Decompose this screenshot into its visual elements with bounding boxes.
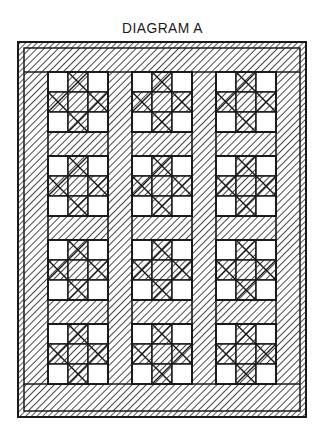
plain-square	[172, 280, 192, 300]
star-block	[216, 156, 276, 216]
plain-square	[132, 72, 152, 92]
plain-square	[88, 196, 108, 216]
plain-square	[48, 112, 68, 132]
plain-square	[256, 72, 276, 92]
plain-square	[256, 364, 276, 384]
plain-square	[172, 112, 192, 132]
star-block	[48, 156, 108, 216]
plain-square	[172, 72, 192, 92]
plain-square	[132, 196, 152, 216]
hatched-square	[68, 344, 88, 364]
star-block	[48, 72, 108, 132]
plain-square	[216, 364, 236, 384]
hatched-square	[152, 176, 172, 196]
plain-square	[88, 240, 108, 260]
star-block	[132, 324, 192, 384]
plain-square	[48, 72, 68, 92]
hatched-square	[152, 344, 172, 364]
plain-square	[88, 72, 108, 92]
plain-square	[132, 112, 152, 132]
hatched-square	[152, 92, 172, 112]
star-block	[216, 72, 276, 132]
hatched-square	[236, 176, 256, 196]
hatched-square	[68, 260, 88, 280]
plain-square	[216, 196, 236, 216]
quilt-diagram	[0, 0, 325, 440]
star-block	[132, 240, 192, 300]
plain-square	[216, 240, 236, 260]
plain-square	[256, 240, 276, 260]
plain-square	[132, 280, 152, 300]
star-block	[216, 240, 276, 300]
plain-square	[132, 324, 152, 344]
plain-square	[216, 156, 236, 176]
plain-square	[256, 324, 276, 344]
plain-square	[256, 156, 276, 176]
plain-square	[216, 112, 236, 132]
plain-square	[172, 324, 192, 344]
plain-square	[132, 364, 152, 384]
hatched-square	[68, 92, 88, 112]
plain-square	[216, 280, 236, 300]
plain-square	[172, 156, 192, 176]
plain-square	[88, 156, 108, 176]
plain-square	[48, 196, 68, 216]
plain-square	[172, 240, 192, 260]
hatched-square	[236, 260, 256, 280]
plain-square	[48, 156, 68, 176]
plain-square	[216, 72, 236, 92]
plain-square	[132, 156, 152, 176]
plain-square	[88, 324, 108, 344]
hatched-square	[152, 260, 172, 280]
plain-square	[88, 280, 108, 300]
plain-square	[132, 240, 152, 260]
hatched-square	[68, 176, 88, 196]
plain-square	[48, 240, 68, 260]
hatched-square	[236, 92, 256, 112]
hatched-square	[236, 344, 256, 364]
plain-square	[48, 324, 68, 344]
star-block	[48, 240, 108, 300]
plain-square	[172, 364, 192, 384]
plain-square	[216, 324, 236, 344]
plain-square	[48, 364, 68, 384]
star-block	[132, 72, 192, 132]
plain-square	[172, 196, 192, 216]
star-block	[132, 156, 192, 216]
plain-square	[88, 112, 108, 132]
plain-square	[256, 112, 276, 132]
star-block	[48, 324, 108, 384]
plain-square	[256, 196, 276, 216]
plain-square	[88, 364, 108, 384]
plain-square	[48, 280, 68, 300]
plain-square	[256, 280, 276, 300]
star-block	[216, 324, 276, 384]
